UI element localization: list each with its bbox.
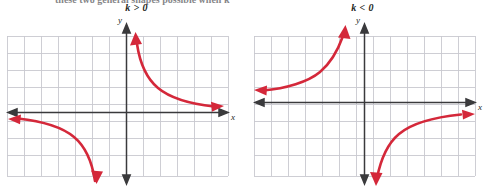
y-axis-arrow-up-left <box>123 24 130 33</box>
curve-arrow-up-left <box>130 32 142 46</box>
curve-arrow-right-right <box>462 110 475 120</box>
inverse-variation-plot-k-positive <box>0 0 245 187</box>
curve-arrow-down-right <box>370 172 383 186</box>
curve-group-right <box>263 36 461 178</box>
x-axis-arrow-left-left <box>8 109 17 116</box>
x-axis-label-left: x <box>231 112 235 122</box>
x-axis-arrow-left-right <box>255 99 264 106</box>
graph-panel-k-negative: k < 0 <box>246 0 491 187</box>
curve-arrowheads-left <box>8 32 224 184</box>
y-axis-arrow-up-right <box>361 24 368 33</box>
x-axis-label-right: x <box>478 102 482 112</box>
grid-lines-left <box>7 36 228 176</box>
curve-quadrant-III-left <box>18 119 95 182</box>
curve-quadrant-II-right <box>263 36 343 91</box>
inverse-variation-plot-k-negative <box>246 0 491 187</box>
curve-arrow-down-left <box>91 171 103 185</box>
x-axis-arrow-right-right <box>466 99 475 106</box>
curve-arrow-up-right <box>338 25 351 39</box>
y-axis-label-left: y <box>118 15 122 25</box>
x-axis-arrow-right-left <box>219 109 228 116</box>
y-axis-arrow-down-right <box>361 175 368 184</box>
y-axis-label-right: y <box>356 15 360 25</box>
graph-panel-k-positive: k > 0 <box>0 0 245 187</box>
y-axis-arrow-down-left <box>123 175 130 184</box>
